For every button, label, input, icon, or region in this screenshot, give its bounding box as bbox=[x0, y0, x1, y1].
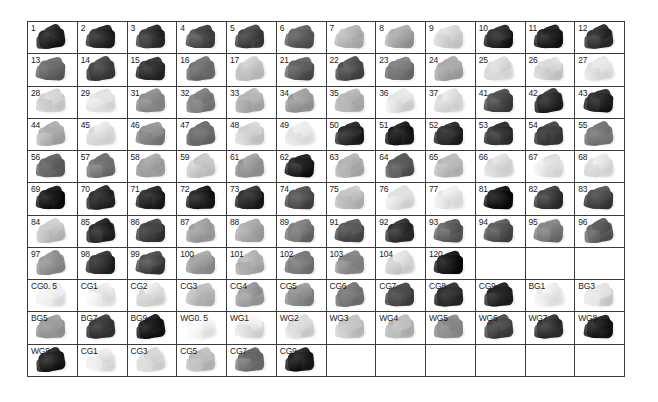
swatch-cell[interactable]: 41 bbox=[476, 87, 526, 119]
swatch-cell[interactable]: WG3 bbox=[327, 312, 377, 344]
swatch-cell[interactable]: CG9 bbox=[476, 280, 526, 312]
swatch-cell[interactable]: WG5 bbox=[426, 312, 476, 344]
swatch-cell[interactable]: 4 bbox=[177, 22, 227, 54]
swatch-cell[interactable]: 85 bbox=[78, 216, 128, 248]
swatch-cell[interactable]: 91 bbox=[327, 216, 377, 248]
swatch-cell[interactable]: 24 bbox=[426, 54, 476, 86]
swatch-cell[interactable]: WG7 bbox=[526, 312, 576, 344]
swatch-cell[interactable]: WG1 bbox=[227, 312, 277, 344]
swatch-cell[interactable]: CG1 bbox=[78, 280, 128, 312]
swatch-cell[interactable]: WG0. 5 bbox=[177, 312, 227, 344]
swatch-cell[interactable]: 48 bbox=[227, 119, 277, 151]
swatch-cell[interactable]: 49 bbox=[277, 119, 327, 151]
swatch-cell[interactable]: 99 bbox=[128, 248, 178, 280]
swatch-cell[interactable]: 44 bbox=[28, 119, 78, 151]
swatch-cell[interactable]: CG8 bbox=[426, 280, 476, 312]
swatch-cell[interactable]: 64 bbox=[376, 151, 426, 183]
swatch-cell[interactable]: 9 bbox=[426, 22, 476, 54]
swatch-cell[interactable]: 54 bbox=[526, 119, 576, 151]
swatch-cell[interactable]: 104 bbox=[376, 248, 426, 280]
swatch-cell[interactable]: BG5 bbox=[28, 312, 78, 344]
swatch-cell[interactable]: BG9 bbox=[128, 312, 178, 344]
swatch-cell[interactable]: 103 bbox=[327, 248, 377, 280]
swatch-cell[interactable]: WG2 bbox=[277, 312, 327, 344]
swatch-cell[interactable]: 14 bbox=[78, 54, 128, 86]
swatch-cell[interactable]: 5 bbox=[227, 22, 277, 54]
swatch-cell[interactable]: 52 bbox=[426, 119, 476, 151]
swatch-cell[interactable]: 77 bbox=[426, 183, 476, 215]
swatch-cell[interactable]: CG4 bbox=[227, 280, 277, 312]
swatch-cell[interactable]: 75 bbox=[327, 183, 377, 215]
swatch-cell[interactable]: 74 bbox=[277, 183, 327, 215]
swatch-cell[interactable]: 81 bbox=[476, 183, 526, 215]
swatch-cell[interactable]: 22 bbox=[327, 54, 377, 86]
swatch-cell[interactable]: 2 bbox=[78, 22, 128, 54]
swatch-cell[interactable]: 29 bbox=[78, 87, 128, 119]
swatch-cell[interactable]: 63 bbox=[327, 151, 377, 183]
swatch-cell[interactable]: CG9 bbox=[277, 345, 327, 377]
swatch-cell[interactable]: 94 bbox=[476, 216, 526, 248]
swatch-cell[interactable]: 36 bbox=[376, 87, 426, 119]
swatch-cell[interactable]: 37 bbox=[426, 87, 476, 119]
swatch-cell[interactable]: CG1 bbox=[78, 345, 128, 377]
swatch-cell[interactable]: 12 bbox=[575, 22, 625, 54]
swatch-cell[interactable]: BG7 bbox=[78, 312, 128, 344]
swatch-cell[interactable]: 7 bbox=[327, 22, 377, 54]
swatch-cell[interactable]: 96 bbox=[575, 216, 625, 248]
swatch-cell[interactable]: WG4 bbox=[376, 312, 426, 344]
swatch-cell[interactable]: CG7 bbox=[227, 345, 277, 377]
swatch-cell[interactable]: 84 bbox=[28, 216, 78, 248]
swatch-cell[interactable]: 26 bbox=[526, 54, 576, 86]
swatch-cell[interactable]: 68 bbox=[575, 151, 625, 183]
swatch-cell[interactable]: 76 bbox=[376, 183, 426, 215]
swatch-cell[interactable]: 51 bbox=[376, 119, 426, 151]
swatch-cell[interactable]: 10 bbox=[476, 22, 526, 54]
swatch-cell[interactable]: 35 bbox=[327, 87, 377, 119]
swatch-cell[interactable]: 73 bbox=[227, 183, 277, 215]
swatch-cell[interactable]: 43 bbox=[575, 87, 625, 119]
swatch-cell[interactable]: 92 bbox=[376, 216, 426, 248]
swatch-cell[interactable]: 70 bbox=[78, 183, 128, 215]
swatch-cell[interactable]: 72 bbox=[177, 183, 227, 215]
swatch-cell[interactable]: 67 bbox=[526, 151, 576, 183]
swatch-cell[interactable]: 66 bbox=[476, 151, 526, 183]
swatch-cell[interactable]: 6 bbox=[277, 22, 327, 54]
swatch-cell[interactable]: 33 bbox=[227, 87, 277, 119]
swatch-cell[interactable]: 83 bbox=[575, 183, 625, 215]
swatch-cell[interactable]: 95 bbox=[526, 216, 576, 248]
swatch-cell[interactable]: 16 bbox=[177, 54, 227, 86]
swatch-cell[interactable]: 102 bbox=[277, 248, 327, 280]
swatch-cell[interactable]: 31 bbox=[128, 87, 178, 119]
swatch-cell[interactable]: 56 bbox=[28, 151, 78, 183]
swatch-cell[interactable]: 89 bbox=[277, 216, 327, 248]
swatch-cell[interactable]: 25 bbox=[476, 54, 526, 86]
swatch-cell[interactable]: 23 bbox=[376, 54, 426, 86]
swatch-cell[interactable]: 47 bbox=[177, 119, 227, 151]
swatch-cell[interactable]: 11 bbox=[526, 22, 576, 54]
swatch-cell[interactable]: 97 bbox=[28, 248, 78, 280]
swatch-cell[interactable]: CG3 bbox=[128, 345, 178, 377]
swatch-cell[interactable]: 34 bbox=[277, 87, 327, 119]
swatch-cell[interactable]: 98 bbox=[78, 248, 128, 280]
swatch-cell[interactable]: 45 bbox=[78, 119, 128, 151]
swatch-cell[interactable]: 87 bbox=[177, 216, 227, 248]
swatch-cell[interactable]: BG1 bbox=[526, 280, 576, 312]
swatch-cell[interactable]: 21 bbox=[277, 54, 327, 86]
swatch-cell[interactable]: WG9 bbox=[28, 345, 78, 377]
swatch-cell[interactable]: 28 bbox=[28, 87, 78, 119]
swatch-cell[interactable]: WG8 bbox=[575, 312, 625, 344]
swatch-cell[interactable]: 65 bbox=[426, 151, 476, 183]
swatch-cell[interactable]: CG7 bbox=[376, 280, 426, 312]
swatch-cell[interactable]: 120 bbox=[426, 248, 476, 280]
swatch-cell[interactable]: 59 bbox=[177, 151, 227, 183]
swatch-cell[interactable]: 13 bbox=[28, 54, 78, 86]
swatch-cell[interactable]: 42 bbox=[526, 87, 576, 119]
swatch-cell[interactable]: 53 bbox=[476, 119, 526, 151]
swatch-cell[interactable]: CG0. 5 bbox=[28, 280, 78, 312]
swatch-cell[interactable]: BG3 bbox=[575, 280, 625, 312]
swatch-cell[interactable]: 15 bbox=[128, 54, 178, 86]
swatch-cell[interactable]: 101 bbox=[227, 248, 277, 280]
swatch-cell[interactable]: WG6 bbox=[476, 312, 526, 344]
swatch-cell[interactable]: 46 bbox=[128, 119, 178, 151]
swatch-cell[interactable]: 62 bbox=[277, 151, 327, 183]
